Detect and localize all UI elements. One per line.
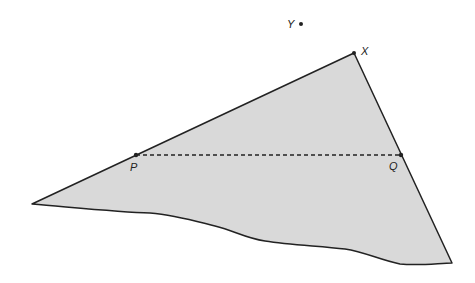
point-p-dot	[134, 153, 138, 157]
point-x-dot	[352, 51, 356, 55]
label-y: Y	[287, 18, 295, 30]
point-q-dot	[399, 153, 403, 157]
geometry-diagram: Y X P Q	[0, 0, 475, 283]
label-p: P	[130, 161, 138, 173]
label-q: Q	[389, 160, 398, 172]
label-x: X	[360, 45, 369, 57]
shaded-region	[32, 53, 452, 265]
point-y-dot	[299, 22, 303, 26]
